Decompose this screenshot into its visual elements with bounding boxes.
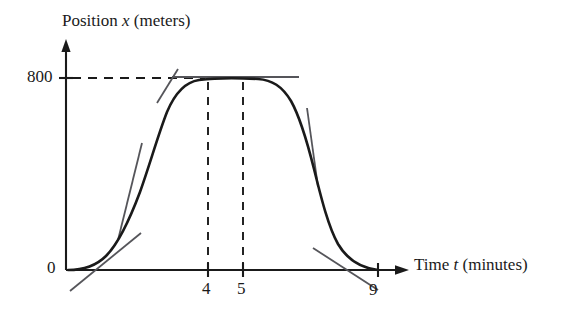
x-tick-label-9: 9 — [369, 281, 378, 298]
y-axis-title-variable: x — [122, 11, 130, 30]
x-tick-label-5: 5 — [237, 280, 246, 297]
y-axis-title-suffix: (meters) — [130, 11, 191, 30]
x-axis — [66, 265, 409, 275]
position-curve — [68, 78, 378, 270]
x-axis-title-suffix: (minutes) — [458, 255, 527, 274]
y-axis-title-prefix: Position — [62, 11, 122, 30]
x-tick-label-4: 4 — [202, 280, 211, 297]
y-tick-label-800: 800 — [27, 68, 53, 85]
x-axis-title-prefix: Time — [414, 255, 454, 274]
tangent-line-rise — [118, 143, 142, 240]
tangent-line-origin — [70, 233, 141, 291]
y-axis-title: Position x (meters) — [62, 12, 190, 29]
y-tick-label-0: 0 — [47, 259, 56, 276]
y-axis — [61, 39, 70, 270]
position-time-graph-figure: Position x (meters) Time t (minutes) 800… — [0, 0, 575, 319]
x-axis-title: Time t (minutes) — [414, 256, 528, 273]
